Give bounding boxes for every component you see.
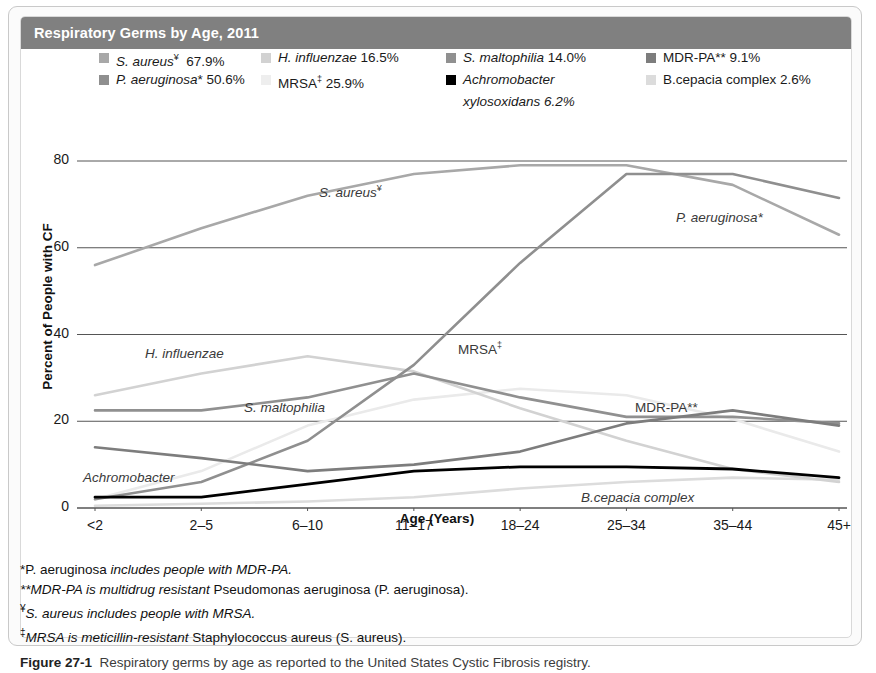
series-line	[95, 374, 839, 424]
footnote-4: ‡MRSA is meticillin-resistant Staphyloco…	[20, 623, 876, 647]
legend-swatch-p-aeruginosa	[99, 75, 109, 85]
legend-column-1: S. aureus¥ 67.9% P. aeruginosa* 50.6%	[99, 49, 245, 93]
x-axis-title: Age (Years)	[21, 511, 852, 526]
series-inline-label: P. aeruginosa*	[676, 210, 763, 225]
figure-caption-label: Figure 27-1	[20, 655, 92, 670]
series-inline-label: S. aureus¥	[319, 183, 382, 200]
series-line	[95, 478, 839, 506]
figure-caption: Figure 27-1 Respiratory germs by age as …	[20, 653, 866, 672]
footnotes: *P. aeruginosa includes people with MDR-…	[0, 560, 876, 647]
chart-title-bar: Respiratory Germs by Age, 2011	[21, 17, 851, 49]
series-line	[95, 410, 839, 471]
series-inline-label: S. maltophilia	[244, 400, 325, 415]
series-inline-label: MRSA‡	[458, 340, 502, 357]
legend-swatch-h-influenzae	[261, 53, 271, 63]
series-inline-label: B.cepacia complex	[581, 490, 694, 505]
legend-label-s-maltophilia: S. maltophilia 14.0%	[463, 49, 586, 66]
figure-panel-inner: Respiratory Germs by Age, 2011 S. aureus…	[20, 16, 852, 638]
legend-label-mdr-pa: MDR-PA** 9.1%	[663, 49, 760, 66]
chart-svg	[21, 111, 852, 511]
legend-swatch-mrsa	[261, 75, 271, 85]
legend-label-b-cepacia: B.cepacia complex 2.6%	[663, 71, 811, 88]
legend-item-p-aeruginosa[interactable]: P. aeruginosa* 50.6%	[99, 71, 245, 90]
plot-area: Percent of People with CF 020406080 <22–…	[21, 111, 852, 551]
footnote-1: *P. aeruginosa includes people with MDR-…	[20, 560, 876, 580]
series-inline-label: Achromobacter	[83, 470, 175, 485]
legend-label-p-aeruginosa: P. aeruginosa* 50.6%	[116, 71, 245, 88]
legend-label-achromobacter: Achromobacter	[463, 71, 555, 88]
figure-panel: Respiratory Germs by Age, 2011 S. aureus…	[8, 6, 862, 646]
legend-column-4: MDR-PA** 9.1% B.cepacia complex 2.6%	[646, 49, 811, 93]
legend-swatch-s-aureus	[99, 53, 109, 63]
legend-item-b-cepacia[interactable]: B.cepacia complex 2.6%	[646, 71, 811, 90]
footnote-3: ¥S. aureus includes people with MRSA.	[20, 599, 876, 623]
chart-title: Respiratory Germs by Age, 2011	[21, 25, 259, 41]
footnote-2: **MDR-PA is multidrug resistant Pseudomo…	[20, 580, 876, 600]
legend-swatch-mdr-pa	[646, 53, 656, 63]
legend-column-2: H. influenzae 16.5% MRSA‡ 25.9%	[261, 49, 399, 93]
chart-legend: S. aureus¥ 67.9% P. aeruginosa* 50.6% H.…	[21, 49, 851, 111]
legend-item-mrsa[interactable]: MRSA‡ 25.9%	[261, 71, 399, 90]
series-inline-label: MDR-PA**	[635, 400, 698, 415]
legend-label-achromobacter-line2: xylosoxidans 6.2%	[446, 93, 586, 110]
legend-item-s-aureus[interactable]: S. aureus¥ 67.9%	[99, 49, 245, 68]
legend-swatch-s-maltophilia	[446, 53, 456, 63]
legend-label-h-influenzae: H. influenzae 16.5%	[278, 49, 399, 66]
legend-swatch-b-cepacia	[646, 75, 656, 85]
legend-item-achromobacter[interactable]: Achromobacter	[446, 71, 586, 90]
legend-item-mdr-pa[interactable]: MDR-PA** 9.1%	[646, 49, 811, 68]
legend-item-s-maltophilia[interactable]: S. maltophilia 14.0%	[446, 49, 586, 68]
figure-caption-text: Respiratory germs by age as reported to …	[100, 655, 591, 670]
legend-item-h-influenzae[interactable]: H. influenzae 16.5%	[261, 49, 399, 68]
legend-swatch-achromobacter	[446, 75, 456, 85]
legend-label-s-aureus: S. aureus¥ 67.9%	[116, 49, 225, 70]
legend-label-mrsa: MRSA‡ 25.9%	[278, 71, 364, 92]
legend-column-3: S. maltophilia 14.0% Achromobacter xylos…	[446, 49, 586, 110]
series-inline-label: H. influenzae	[145, 346, 224, 361]
series-line	[95, 389, 839, 500]
figure-container: Respiratory Germs by Age, 2011 S. aureus…	[0, 0, 876, 673]
